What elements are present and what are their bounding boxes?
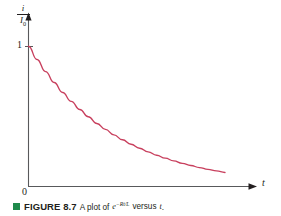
caption-bullet-icon — [13, 203, 20, 210]
caption-text-before: A plot of — [80, 202, 110, 211]
y-axis-label-numerator: i — [12, 4, 34, 13]
caption-text-middle: versus — [132, 202, 156, 211]
y-axis-label-denominator: I0 — [12, 15, 34, 29]
x-axis-arrowhead — [249, 183, 258, 189]
caption-text-end: . — [162, 202, 164, 211]
plot-area: i I0 1 0 t — [0, 0, 281, 195]
caption-figure-number: FIGURE 8.7 — [24, 201, 77, 212]
y-tick-label-one: 1 — [17, 39, 22, 50]
y-axis-label: i I0 — [12, 4, 34, 29]
caption-math-exponent: −Rt/L — [116, 201, 129, 207]
y-axis-label-denominator-subscript: 0 — [23, 20, 26, 27]
caption-description: A plot ofe−Rt/Lversust. — [80, 201, 164, 212]
decay-curve — [29, 46, 226, 172]
exponential-decay-plot — [0, 0, 281, 195]
x-axis-label: t — [262, 177, 265, 188]
figure-caption: FIGURE 8.7 A plot ofe−Rt/Lversust. — [0, 196, 281, 216]
figure-8-7: i I0 1 0 t FIGURE 8.7 A plot ofe−Rt/Lver… — [0, 0, 281, 216]
